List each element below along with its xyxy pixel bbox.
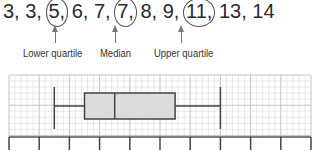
box-plot: [0, 0, 320, 151]
interquartile-box: [85, 93, 176, 119]
x-axis: [9, 137, 311, 150]
